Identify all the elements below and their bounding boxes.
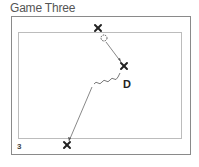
outer-border [12,17,191,155]
ball-icon [101,35,107,41]
defender-label: D [123,78,131,90]
player-x-icon [121,63,127,69]
drill-diagram [0,0,199,167]
player-x-icon [64,142,70,148]
player-x-icon [95,25,101,31]
dribble-line [94,73,120,84]
field-rectangle [19,33,182,139]
diagram-number: 3 [17,142,21,151]
run-line [69,87,92,141]
